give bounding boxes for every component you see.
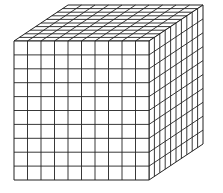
cube-diagram [0, 0, 223, 193]
unit-cube-grid [0, 0, 223, 193]
